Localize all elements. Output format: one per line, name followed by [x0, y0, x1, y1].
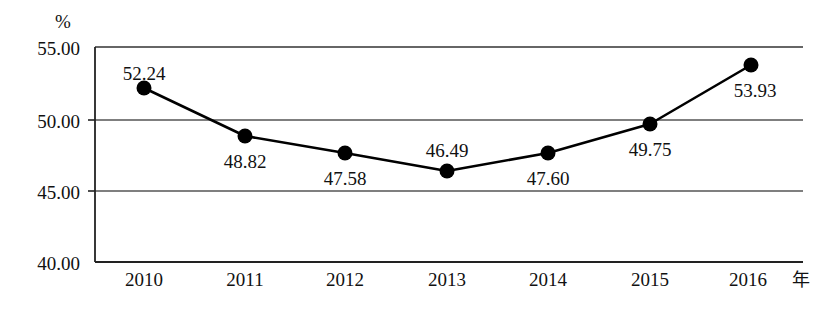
x-tick-label-2011: 2011 — [195, 270, 295, 289]
data-label-2011: 48.82 — [195, 152, 295, 171]
data-point-2013 — [440, 164, 455, 179]
data-point-2015 — [643, 117, 658, 132]
x-tick-label-2013: 2013 — [397, 270, 497, 289]
data-point-2014 — [541, 146, 556, 161]
data-label-2015: 49.75 — [600, 140, 700, 159]
data-point-2016 — [744, 58, 759, 73]
line-chart: % 55.00 50.00 45.00 40.00 52.24 48.82 47… — [0, 0, 834, 322]
data-label-2016: 53.93 — [705, 81, 805, 100]
data-point-2012 — [338, 146, 353, 161]
x-tick-label-2010: 2010 — [94, 270, 194, 289]
data-label-2013: 46.49 — [397, 141, 497, 160]
data-point-2011 — [238, 129, 253, 144]
x-tick-label-2015: 2015 — [600, 270, 700, 289]
x-tick-label-2012: 2012 — [295, 270, 395, 289]
data-label-2014: 47.60 — [498, 169, 598, 188]
data-label-2012: 47.58 — [295, 169, 395, 188]
x-tick-label-2016: 2016 — [698, 270, 798, 289]
data-label-2010: 52.24 — [94, 64, 194, 83]
x-axis-title: 年 — [792, 271, 810, 289]
x-tick-label-2014: 2014 — [498, 270, 598, 289]
